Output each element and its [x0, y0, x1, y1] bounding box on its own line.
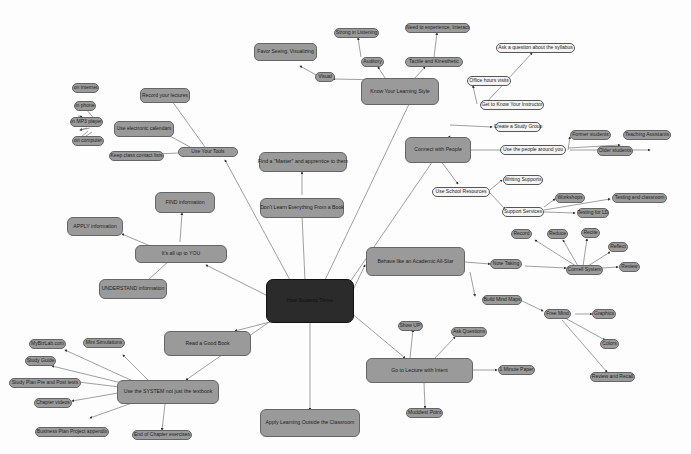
node-review-recall[interactable]: Review and Recall	[590, 372, 635, 382]
node-visual[interactable]: Visual	[315, 72, 335, 82]
node-good-book[interactable]: Read a Good Book	[164, 331, 251, 356]
node-use-tools[interactable]: Use Your Tools	[178, 147, 238, 157]
node-need-experience[interactable]: Need to experience, Interact	[405, 23, 470, 33]
node-record-lectures[interactable]: Record your lectures	[140, 88, 190, 103]
node-electronic-calendars[interactable]: Use electronic calendars	[114, 121, 174, 137]
node-support-services[interactable]: Support Services	[502, 207, 544, 217]
node-mini-simulations[interactable]: Mini Simulations	[83, 338, 125, 348]
node-reflect[interactable]: Reflect	[608, 242, 628, 252]
node-know-instructor[interactable]: Get to Know Your Instructor	[480, 100, 544, 110]
node-recite[interactable]: Recite	[581, 228, 600, 238]
node-on-computer[interactable]: on computer	[72, 136, 104, 146]
node-mybizlab[interactable]: MyBizLab.com	[29, 339, 66, 349]
node-know-learning-style[interactable]: Know Your Learning Style	[361, 78, 439, 105]
node-colors[interactable]: Colors	[600, 339, 619, 349]
node-reduce[interactable]: Reduce	[547, 229, 568, 239]
node-writing-supports[interactable]: Writing Supports	[503, 175, 543, 185]
node-in-mp3[interactable]: in MP3 player	[70, 117, 103, 127]
node-connect-people[interactable]: Connect with People	[405, 137, 471, 163]
node-muddiest-point[interactable]: Muddiest Point	[406, 408, 443, 418]
central-topic[interactable]: How Students Thrive	[266, 279, 354, 323]
node-favor-seeing[interactable]: Favor Seeing, Visualizing	[254, 43, 317, 61]
node-auditory[interactable]: Auditory	[361, 57, 384, 67]
node-show-up[interactable]: Show UP!	[398, 321, 423, 331]
node-up-to-you[interactable]: It's all up to YOU	[135, 245, 227, 263]
node-minute-paper[interactable]: 1 Minute Paper	[498, 365, 535, 375]
node-teaching-assistants[interactable]: Teaching Assistants	[623, 130, 671, 140]
node-workshops[interactable]: Workshops	[555, 193, 585, 203]
node-understand-information[interactable]: UNDERSTAND information	[99, 279, 167, 299]
node-office-hours[interactable]: Office hours visits	[467, 76, 511, 86]
node-lecture-intent[interactable]: Go to Lecture with Intent	[366, 358, 473, 383]
node-note-taking[interactable]: Note Taking	[490, 259, 522, 269]
node-use-system[interactable]: Use the SYSTEM not just the textbook	[117, 380, 219, 404]
node-contact-lists[interactable]: Keep class contact lists	[109, 151, 164, 161]
node-school-resources[interactable]: Use School Resources	[432, 187, 490, 197]
node-behave-all-star[interactable]: Behave like an Academic All-Star	[366, 247, 465, 276]
node-build-mind-maps[interactable]: Build Mind Maps	[482, 295, 522, 305]
node-study-guide[interactable]: Study Guide	[25, 356, 56, 366]
node-testing-ld[interactable]: Testing for LD	[577, 208, 609, 218]
node-ask-questions[interactable]: Ask Questions	[451, 327, 487, 337]
node-review[interactable]: Review	[619, 262, 640, 272]
node-use-people[interactable]: Use the people around you	[500, 145, 566, 155]
node-find-master[interactable]: Find a "Master" and apprentice to them	[259, 152, 347, 172]
node-former-students[interactable]: Former students	[570, 130, 611, 140]
node-strong-listening[interactable]: Strong in Listening	[334, 28, 379, 38]
node-business-plan[interactable]: Business Plan Project appendix	[35, 427, 109, 437]
node-end-chapter[interactable]: End of Chapter exercises	[132, 430, 192, 440]
node-cornell-system[interactable]: Cornell System	[566, 265, 603, 275]
node-older-students[interactable]: Older students	[597, 146, 633, 156]
node-in-phone[interactable]: in phone	[74, 101, 96, 111]
node-on-internet[interactable]: on internet	[72, 83, 99, 93]
node-testing-classroom[interactable]: Testing and classroom	[612, 193, 667, 203]
node-record[interactable]: Record	[511, 229, 532, 239]
node-study-group[interactable]: Create a Study Group	[495, 122, 541, 132]
node-find-information[interactable]: FIND information	[155, 192, 215, 213]
node-apply-information[interactable]: APPLY information	[67, 217, 123, 236]
node-tactile[interactable]: Tactile and Kinesthetic	[405, 57, 463, 67]
node-free-mind[interactable]: Free Mind	[544, 309, 571, 319]
node-dont-learn-book[interactable]: Don't Learn Everything From a Book	[260, 198, 344, 218]
node-ask-syllabus[interactable]: Ask a question about the syllabus	[496, 43, 575, 53]
node-study-plan[interactable]: Study Plan Pre and Post tests	[9, 378, 81, 388]
node-apply-outside[interactable]: Apply Learning Outside the Classroom	[260, 409, 360, 437]
node-graphics[interactable]: Graphics	[592, 309, 616, 319]
node-chapter-videos[interactable]: Chapter videos	[34, 398, 72, 408]
